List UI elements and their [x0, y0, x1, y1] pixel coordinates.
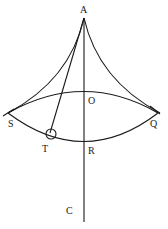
label-q: Q: [150, 118, 158, 129]
upper-arc: [8, 92, 158, 114]
right-cusp-curve: [84, 18, 160, 113]
label-t: T: [42, 143, 48, 154]
label-a: A: [80, 4, 88, 15]
label-r: R: [88, 145, 95, 156]
label-o: O: [88, 95, 95, 106]
diagram-canvas: A O S Q T R C: [0, 0, 168, 229]
lower-arc: [8, 113, 158, 142]
label-c: C: [66, 205, 73, 216]
left-cusp-curve: [8, 18, 84, 113]
label-s: S: [8, 118, 14, 129]
